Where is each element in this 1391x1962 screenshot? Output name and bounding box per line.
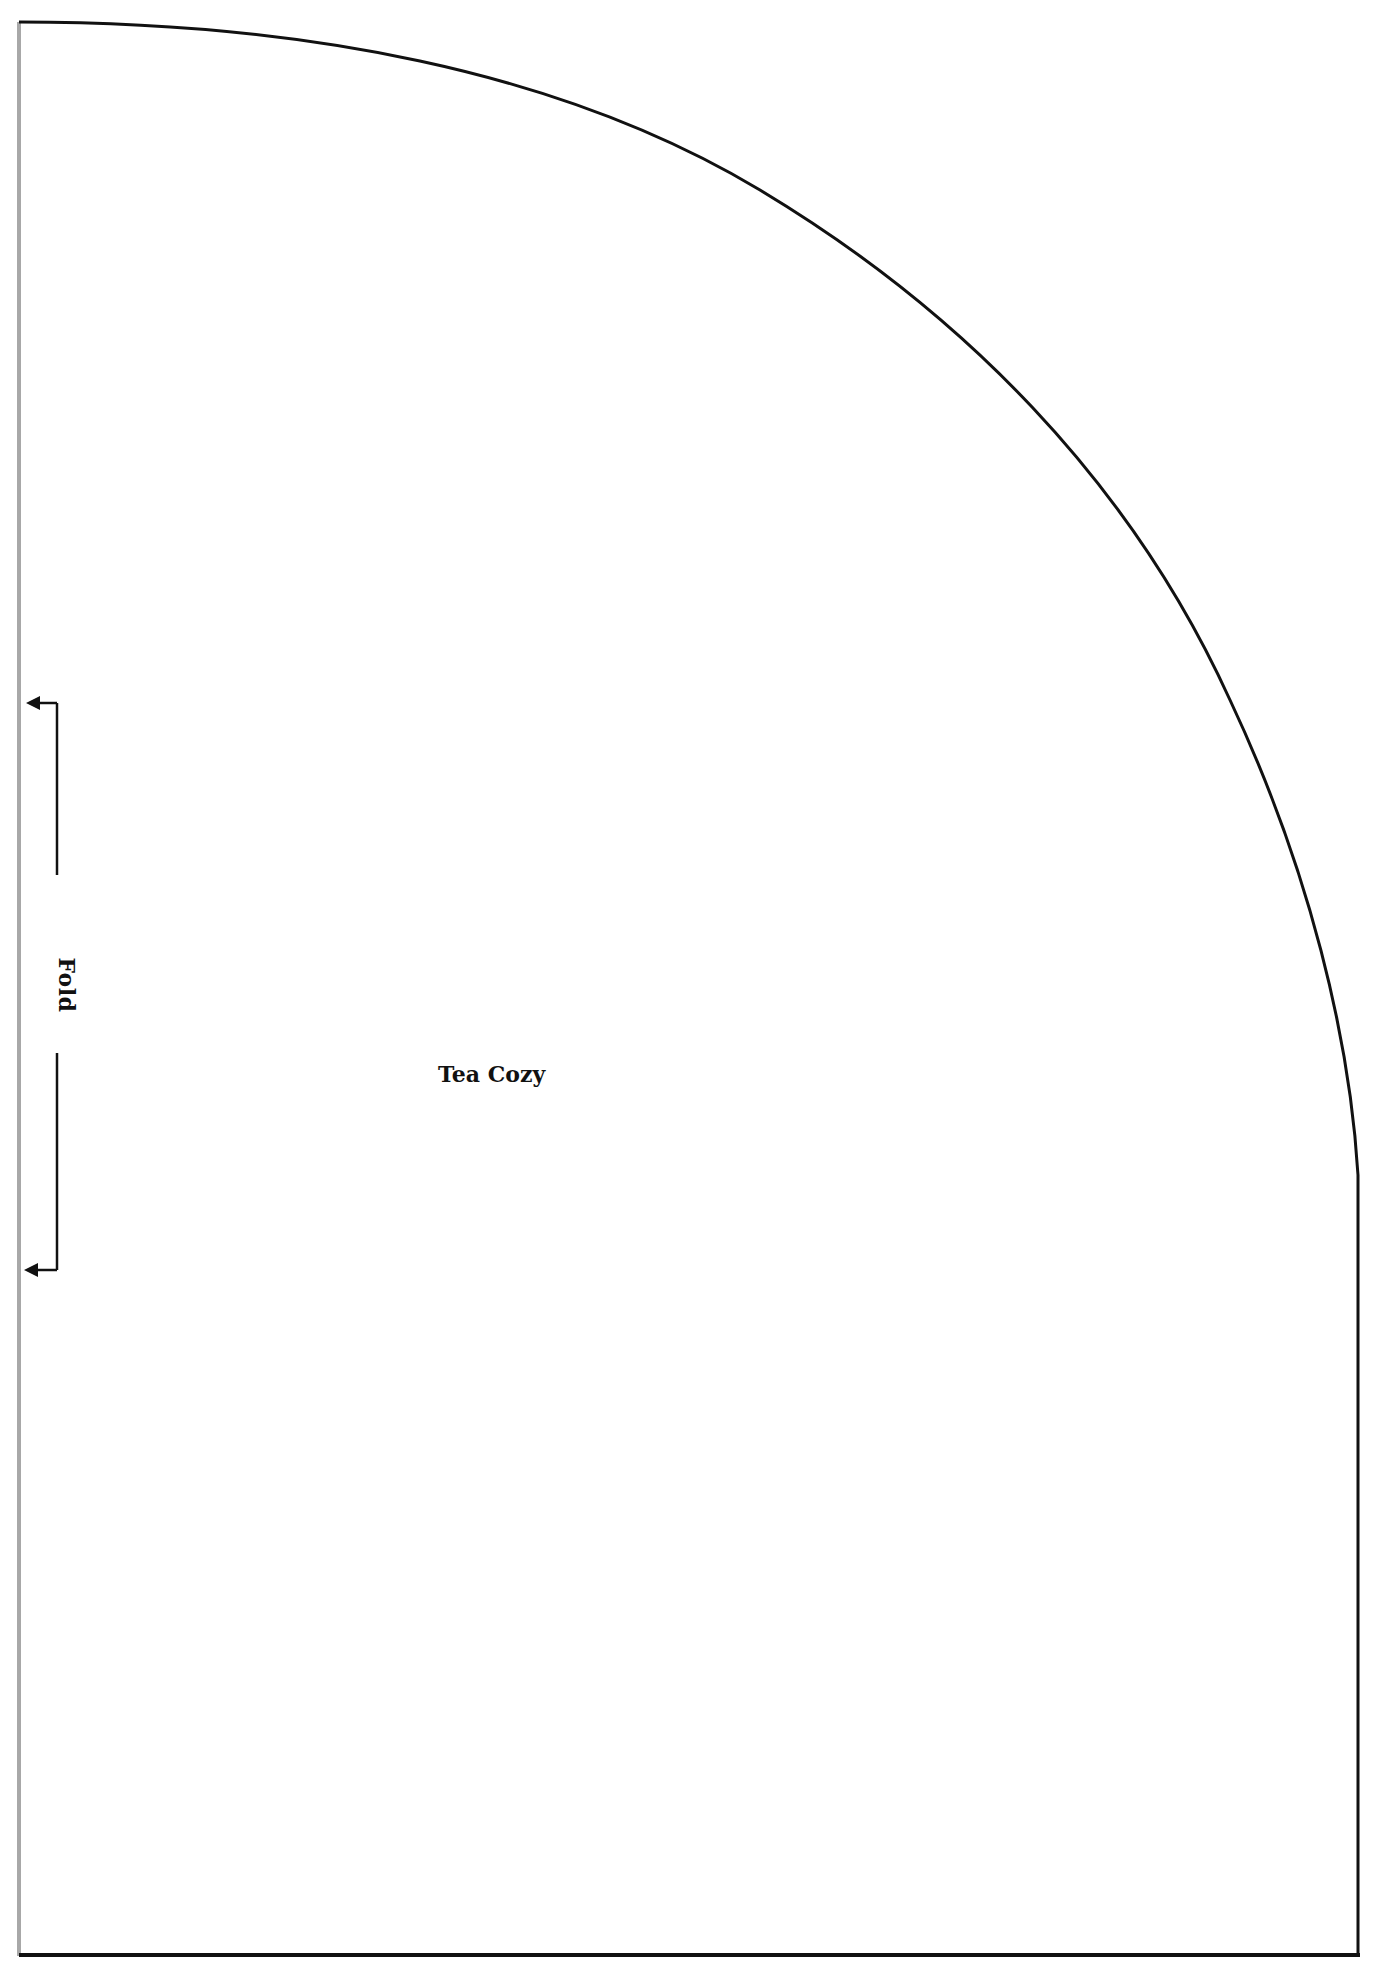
fold-label: Fold (54, 958, 80, 1013)
arrowhead-left-icon (24, 1263, 38, 1277)
pattern-outline-curve (19, 22, 1358, 1955)
fold-arrow-lower (24, 1053, 57, 1277)
pattern-piece-drawing (0, 0, 1391, 1962)
pattern-piece-title: Tea Cozy (438, 1061, 545, 1087)
fold-arrow-upper (26, 696, 57, 875)
arrowhead-left-icon (26, 696, 40, 710)
